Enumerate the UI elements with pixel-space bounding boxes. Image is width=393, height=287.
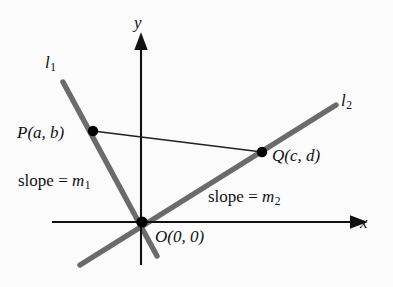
point-p [88,126,98,136]
line-l1-subscript: 1 [50,61,56,74]
segment-pq [93,131,262,152]
geometry-figure: y x l1 l2 P(a, b) Q(c, d) O(0, 0) slope … [0,0,393,287]
line-l2-label: l2 [341,92,352,112]
y-axis-label: y [134,14,142,31]
point-origin-label: O(0, 0) [155,228,204,245]
line-l1-label: l1 [45,54,56,74]
slope-m2-text: slope = [208,187,262,206]
slope-m2-label: slope = m2 [208,188,281,208]
slope-m2-variable: m [262,187,274,206]
slope-m1-label: slope = m1 [18,172,91,192]
slope-m1-subscript: 1 [84,179,90,192]
slope-m1-variable: m [72,171,84,190]
point-q [257,147,267,157]
x-axis-label: x [360,214,368,231]
point-origin [136,216,147,227]
point-q-label: Q(c, d) [272,147,320,164]
line-l1 [63,82,157,256]
point-p-label: P(a, b) [17,124,64,141]
slope-m1-text: slope = [18,171,72,190]
slope-m2-subscript: 2 [274,195,280,208]
line-l2-subscript: 2 [346,99,352,112]
